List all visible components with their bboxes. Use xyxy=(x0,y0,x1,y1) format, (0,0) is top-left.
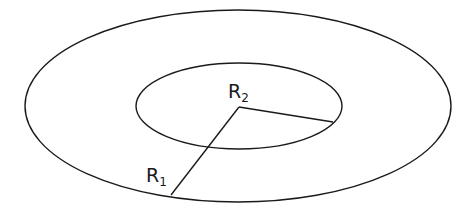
label-r2: R2 xyxy=(228,80,249,105)
annulus-diagram: R2 R1 xyxy=(0,0,475,217)
inner-ellipse xyxy=(136,63,342,149)
radius-r1-line xyxy=(171,107,239,195)
label-r1: R1 xyxy=(146,164,167,189)
radius-r2-line xyxy=(239,107,333,122)
outer-ellipse xyxy=(25,10,451,202)
